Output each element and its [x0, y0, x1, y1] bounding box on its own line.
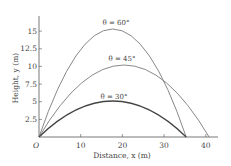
trajectory-chart: 2.5 5 7.5 10 12.5 15 O 10 20 30 40 Dista… — [0, 0, 231, 166]
x-tick-label: 20 — [118, 141, 128, 150]
x-tick-label: 10 — [76, 141, 86, 150]
curve-label-60: θ = 60° — [103, 19, 130, 27]
y-tick-label: 12.5 — [20, 44, 37, 53]
y-tick-label: 2.5 — [25, 115, 37, 124]
y-ticks — [39, 31, 42, 119]
y-tick-label: 10 — [27, 62, 37, 71]
x-tick-label: 30 — [159, 141, 169, 150]
x-ticks — [81, 134, 206, 137]
curve-label-30: θ = 30° — [101, 93, 128, 101]
y-tick-label: 7.5 — [25, 80, 37, 89]
y-axis-title: Height, y (m) — [11, 53, 20, 103]
y-tick-label: 15 — [27, 27, 37, 36]
x-axis-title: Distance, x (m) — [93, 151, 151, 160]
y-tick-label: 5 — [32, 97, 37, 106]
origin-label: O — [33, 141, 39, 150]
trajectory-60deg — [39, 29, 186, 137]
x-tick-label: 40 — [201, 141, 211, 150]
trajectory-30deg — [39, 101, 186, 137]
curve-label-45: θ = 45° — [109, 55, 136, 63]
